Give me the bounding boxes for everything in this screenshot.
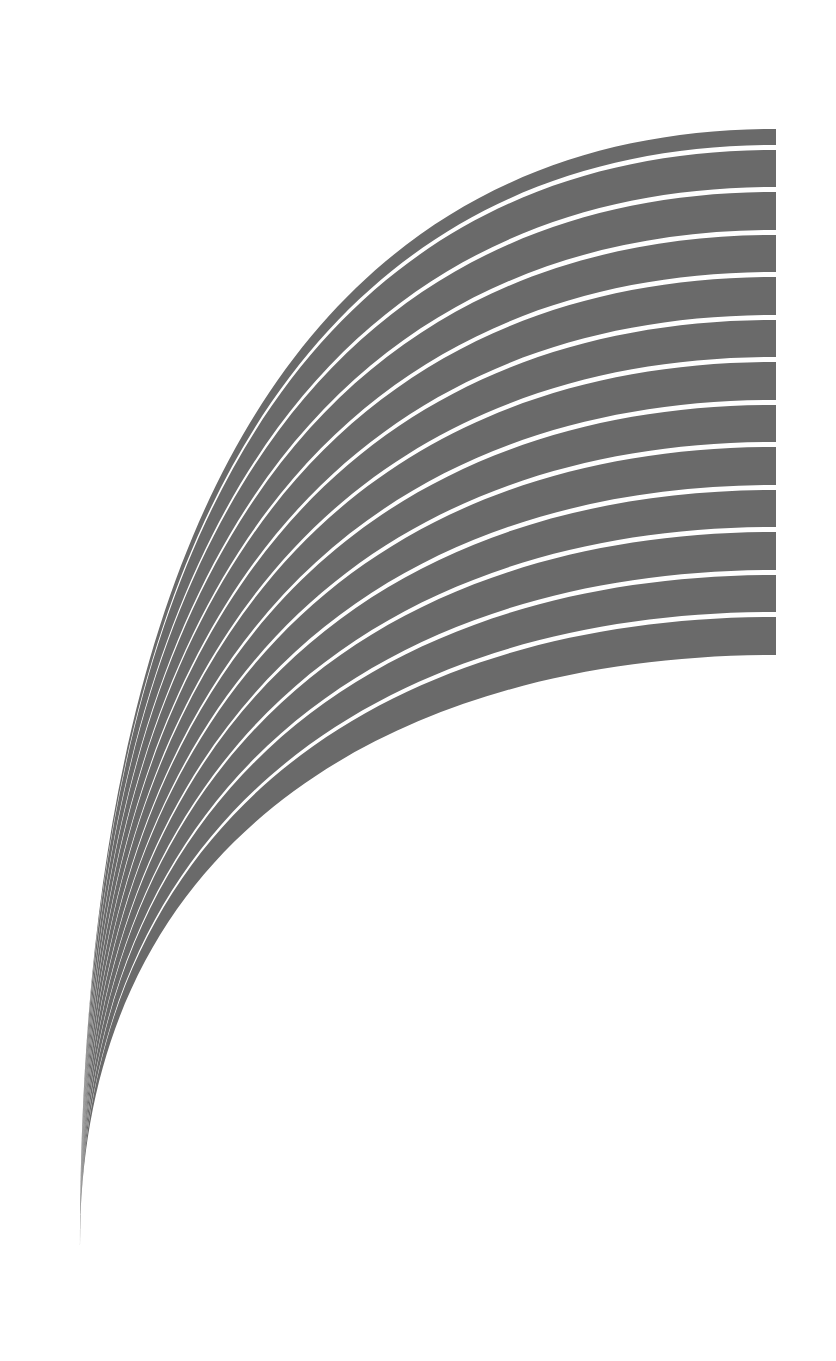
striped-fan-artwork [0,0,836,1361]
